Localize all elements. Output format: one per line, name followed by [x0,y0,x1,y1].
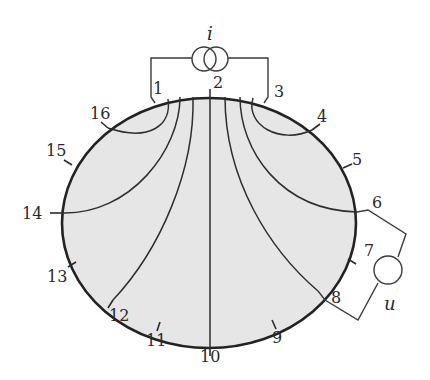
electrode-label-5: 5 [352,150,362,169]
domain-ellipse [62,98,356,348]
eit-diagram: i u 1 2 3 4 5 6 7 8 9 10 11 12 13 14 15 … [0,0,430,380]
voltage-label: u [384,293,396,314]
electrode-label-10: 10 [200,347,220,366]
electrode-label-13: 13 [47,267,67,286]
current-label: i [207,23,213,44]
electrode-label-3: 3 [274,82,284,101]
electrode-label-9: 9 [272,328,282,347]
electrode-label-1: 1 [153,79,163,98]
electrode-label-2: 2 [213,73,223,92]
electrode-label-7: 7 [364,241,374,260]
electrode-label-16: 16 [90,104,110,123]
electrode-label-11: 11 [146,331,166,350]
electrode-label-12: 12 [109,306,129,325]
electrode-label-4: 4 [317,107,327,126]
electrode-label-15: 15 [46,141,66,160]
electrode-label-14: 14 [22,204,42,223]
electrode-label-6: 6 [372,193,382,212]
electrode-label-8: 8 [331,288,341,307]
